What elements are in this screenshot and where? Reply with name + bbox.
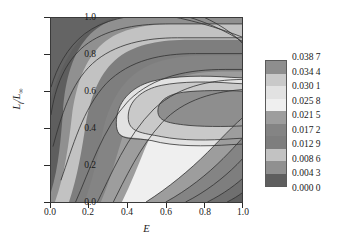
colorbar-swatch-4 bbox=[266, 111, 286, 124]
colorbar-swatch-5 bbox=[266, 124, 286, 137]
colorbar-label-9: 0.000 0 bbox=[292, 183, 345, 193]
xtick-mark-0 bbox=[50, 203, 51, 208]
xtick-label-4: 0.8 bbox=[185, 207, 225, 217]
contour-bands bbox=[51, 18, 242, 202]
y-axis-label: Lf/L∞ bbox=[11, 69, 25, 129]
xtick-label-1: 0.2 bbox=[68, 207, 108, 217]
y-axis-label-den: L bbox=[11, 94, 22, 100]
contour-figure: 1.0 0.8 0.6 0.4 0.2 0.0 0.0 0.2 0.4 0.6 … bbox=[0, 0, 345, 247]
band-level-9-core bbox=[158, 91, 242, 127]
colorbar-label-7: 0.008 6 bbox=[292, 154, 345, 164]
colorbar-swatch-9 bbox=[266, 174, 286, 187]
colorbar-label-3: 0.025 8 bbox=[292, 96, 345, 106]
colorbar-label-2: 0.030 1 bbox=[292, 81, 345, 91]
ytick-label-1: 0.8 bbox=[52, 49, 96, 59]
ytick-label-4: 0.2 bbox=[52, 160, 96, 170]
colorbar bbox=[265, 60, 287, 187]
colorbar-labels: 0.038 7 0.034 4 0.030 1 0.025 8 0.021 5 … bbox=[292, 52, 345, 193]
xtick-label-5: 1.0 bbox=[223, 207, 263, 217]
colorbar-swatch-0 bbox=[266, 61, 286, 74]
colorbar-swatch-8 bbox=[266, 161, 286, 174]
ytick-mark-2 bbox=[44, 91, 50, 92]
ytick-label-2: 0.6 bbox=[52, 86, 96, 96]
y-axis-label-num: L bbox=[11, 104, 22, 110]
ytick-mark-4 bbox=[44, 165, 50, 166]
xtick-mark-5 bbox=[242, 203, 243, 208]
colorbar-swatch-7 bbox=[266, 149, 286, 162]
xtick-mark-3 bbox=[166, 203, 167, 208]
contour-plot-area bbox=[50, 17, 243, 203]
colorbar-label-6: 0.012 9 bbox=[292, 139, 345, 149]
ytick-label-0: 1.0 bbox=[52, 12, 96, 22]
ytick-mark-3 bbox=[44, 128, 50, 129]
ytick-mark-0 bbox=[44, 17, 50, 18]
xtick-label-2: 0.4 bbox=[107, 207, 147, 217]
y-axis-label-den-sub: ∞ bbox=[17, 89, 25, 94]
xtick-mark-4 bbox=[204, 203, 205, 208]
xtick-label-0: 0.0 bbox=[30, 207, 70, 217]
xtick-label-3: 0.6 bbox=[146, 207, 186, 217]
colorbar-label-1: 0.034 4 bbox=[292, 67, 345, 77]
colorbar-swatch-3 bbox=[266, 99, 286, 112]
colorbar-swatch-2 bbox=[266, 86, 286, 99]
colorbar-label-0: 0.038 7 bbox=[292, 52, 345, 62]
colorbar-label-5: 0.017 2 bbox=[292, 125, 345, 135]
colorbar-label-8: 0.004 3 bbox=[292, 168, 345, 178]
colorbar-label-4: 0.021 5 bbox=[292, 110, 345, 120]
ytick-mark-1 bbox=[44, 54, 50, 55]
y-axis-label-num-sub: f bbox=[17, 102, 25, 104]
xtick-mark-1 bbox=[88, 203, 89, 208]
xtick-mark-2 bbox=[127, 203, 128, 208]
x-axis-label: E bbox=[50, 223, 243, 234]
colorbar-swatch-1 bbox=[266, 74, 286, 87]
ytick-label-5: 0.0 bbox=[52, 197, 96, 207]
ytick-label-3: 0.4 bbox=[52, 123, 96, 133]
colorbar-swatch-6 bbox=[266, 136, 286, 149]
